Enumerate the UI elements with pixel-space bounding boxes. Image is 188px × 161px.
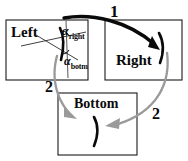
step-number-1: 1	[110, 3, 119, 20]
panel-label-right: Right	[116, 53, 152, 68]
step-number-2-right: 2	[152, 106, 160, 122]
panel-label-left: Left	[11, 25, 38, 40]
alpha-symbol-botm: α	[64, 54, 71, 68]
angle-label-alpha-right: αright	[62, 22, 85, 41]
alpha-symbol-right: α	[62, 24, 69, 38]
step-number-2-left: 2	[45, 79, 53, 95]
angle-label-alpha-botm: αbotm	[64, 52, 88, 71]
alpha-subscript-right: right	[69, 32, 85, 41]
panel-label-bottom: Bottom	[74, 97, 118, 111]
alpha-subscript-botm: botm	[71, 62, 88, 71]
